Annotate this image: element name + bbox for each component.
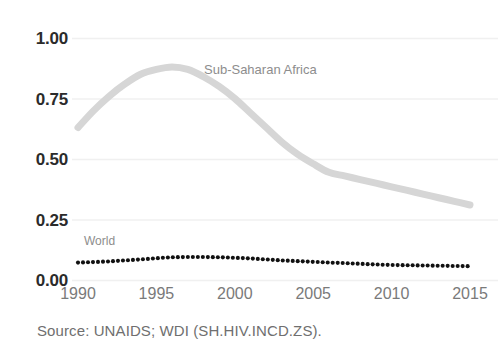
y-axis-tick-label: 1.00 [8, 30, 68, 47]
world-data-dot [421, 263, 425, 267]
world-data-dot [281, 258, 285, 262]
world-data-dot [356, 262, 360, 266]
world-data-dot [146, 257, 150, 261]
world-data-dot [141, 257, 145, 261]
world-data-dot [226, 255, 230, 259]
x-axis-tick-label: 1995 [124, 286, 188, 302]
world-data-dot [156, 256, 160, 260]
world-data-dot [166, 255, 170, 259]
world-data-dot [81, 260, 85, 264]
world-data-dot [106, 259, 110, 263]
x-axis-tick-label: 2015 [438, 286, 498, 302]
world-data-dot [201, 255, 205, 259]
world-data-dot [371, 262, 375, 266]
world-data-dot [251, 257, 255, 261]
x-axis-tick-label: 2005 [281, 286, 345, 302]
world-data-dot [426, 264, 430, 268]
plot-area: 1.00 0.75 0.50 0.25 0.00 1990 1995 2000 … [0, 0, 498, 300]
world-data-dot [151, 256, 155, 260]
world-data-dot [366, 262, 370, 266]
world-data-dot [306, 260, 310, 264]
world-data-dot [261, 257, 265, 261]
hiv-incidence-chart-figure: 1.00 0.75 0.50 0.25 0.00 1990 1995 2000 … [0, 0, 498, 352]
world-data-dot [381, 263, 385, 267]
world-data-dot [331, 261, 335, 265]
world-data-dot [241, 256, 245, 260]
world-data-dot [376, 263, 380, 267]
world-data-dot [401, 263, 405, 267]
source-caption: Source: UNAIDS; WDI (SH.HIV.INCD.ZS). [37, 322, 322, 339]
world-data-dot [161, 256, 165, 260]
world-data-dot [136, 258, 140, 262]
world-data-dot [411, 263, 415, 267]
world-data-dot [456, 264, 460, 268]
world-data-dot [91, 260, 95, 264]
world-data-dot [321, 260, 325, 264]
world-data-dot [396, 263, 400, 267]
world-data-dot [416, 263, 420, 267]
world-data-dot [176, 255, 180, 259]
world-data-dot [291, 259, 295, 263]
world-data-dot [286, 259, 290, 263]
world-data-dot [311, 260, 315, 264]
world-data-dot [461, 264, 465, 268]
world-data-dot [391, 263, 395, 267]
world-data-dot [276, 258, 280, 262]
x-axis-tick-label: 2010 [360, 286, 424, 302]
world-data-dot [446, 264, 450, 268]
world-data-dot [86, 260, 90, 264]
world-data-dot [181, 255, 185, 259]
world-data-dot [96, 260, 100, 264]
world-data-dot [186, 255, 190, 259]
chart-canvas [0, 0, 498, 300]
world-data-dot [266, 257, 270, 261]
world-data-dot [451, 264, 455, 268]
y-axis-tick-label: 0.75 [8, 90, 68, 107]
world-data-dot [256, 257, 260, 261]
sub-saharan-africa-line [78, 67, 470, 205]
world-data-dot [196, 255, 200, 259]
world-data-dot [126, 258, 130, 262]
world-data-dot [406, 263, 410, 267]
series-label-world: World [84, 235, 115, 247]
world-data-dot [386, 263, 390, 267]
y-axis-tick-label: 0.50 [8, 151, 68, 168]
x-axis-tick-label: 1990 [46, 286, 110, 302]
world-data-dot [191, 255, 195, 259]
world-data-dot [211, 255, 215, 259]
world-data-dot [236, 256, 240, 260]
world-data-dot [296, 259, 300, 263]
world-data-dot [231, 256, 235, 260]
world-data-dot [336, 261, 340, 265]
y-axis-tick-label: 0.25 [8, 211, 68, 228]
world-data-dot [431, 264, 435, 268]
world-data-dot [246, 256, 250, 260]
world-data-dot [121, 258, 125, 262]
world-data-dot [351, 261, 355, 265]
world-data-dot [171, 255, 175, 259]
world-data-dot [216, 255, 220, 259]
world-data-dot [436, 264, 440, 268]
world-data-dot [76, 261, 80, 265]
series-world-dots [76, 255, 470, 268]
world-data-dot [441, 264, 445, 268]
series-sub-saharan-africa [78, 67, 470, 205]
world-data-dot [101, 260, 105, 264]
x-axis-tick-label: 2000 [203, 286, 267, 302]
world-data-dot [361, 262, 365, 266]
world-data-dot [341, 261, 345, 265]
world-data-dot [316, 260, 320, 264]
world-data-dot [131, 258, 135, 262]
world-data-dot [111, 259, 115, 263]
series-label-sub-saharan-africa: Sub-Saharan Africa [204, 63, 317, 76]
world-data-dot [466, 264, 470, 268]
world-data-dot [301, 259, 305, 263]
world-data-dot [206, 255, 210, 259]
world-data-dot [346, 261, 350, 265]
world-data-dot [326, 260, 330, 264]
world-data-dot [271, 258, 275, 262]
world-data-dot [221, 255, 225, 259]
world-data-dot [116, 259, 120, 263]
